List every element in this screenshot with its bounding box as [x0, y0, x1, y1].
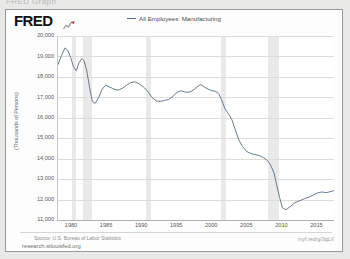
shortlink[interactable]: myf.red/g/3qLV: [298, 236, 334, 242]
fred-chart-screenshot: FRED Graph FRED All Employees: Manufactu…: [0, 0, 350, 259]
y-tick-label: 16,000: [20, 115, 54, 121]
y-tick-label: 14,000: [20, 156, 54, 162]
y-tick-label: 13,000: [20, 176, 54, 182]
chart-card: FRED All Employees: Manufacturing (Thous…: [5, 9, 343, 252]
x-tick-label: 1995: [170, 222, 182, 228]
x-tick-label: 1985: [100, 222, 112, 228]
x-tick-label: 1990: [135, 222, 147, 228]
y-axis-tick-labels: 11,00012,00013,00014,00015,00016,00017,0…: [20, 10, 54, 252]
series-path: [58, 48, 334, 210]
series-line-all-employees-manufacturing: [58, 36, 334, 220]
legend: All Employees: Manufacturing: [6, 15, 342, 22]
x-tick-label: 2000: [205, 222, 217, 228]
y-tick-label: 19,000: [20, 54, 54, 60]
clipped-header-text: FRED Graph: [6, 0, 56, 6]
plot-area: [57, 36, 334, 220]
y-tick-label: 12,000: [20, 197, 54, 203]
x-tick-label: 2010: [275, 222, 287, 228]
chart-header: FRED All Employees: Manufacturing: [6, 10, 342, 32]
legend-swatch: [127, 18, 136, 19]
chart-footer: Source: U.S. Bureau of Labor Statistics …: [6, 235, 342, 252]
clipped-header-strip: FRED Graph: [0, 0, 350, 9]
x-axis-line: [57, 220, 334, 221]
y-tick-label: 20,000: [20, 33, 54, 39]
y-tick-label: 11,000: [20, 217, 54, 223]
y-axis-title: (Thousands of Persons): [13, 71, 19, 171]
y-tick-label: 18,000: [20, 74, 54, 80]
site-url[interactable]: research.stlouisfed.org: [22, 243, 81, 249]
x-tick-label: 2015: [310, 222, 322, 228]
y-tick-label: 17,000: [20, 95, 54, 101]
x-tick-label: 2005: [240, 222, 252, 228]
x-tick-label: 1980: [65, 222, 77, 228]
footer-divider: [20, 232, 332, 233]
source-note: Source: U.S. Bureau of Labor Statistics: [34, 235, 121, 241]
y-tick-label: 15,000: [20, 135, 54, 141]
legend-label: All Employees: Manufacturing: [139, 15, 221, 22]
